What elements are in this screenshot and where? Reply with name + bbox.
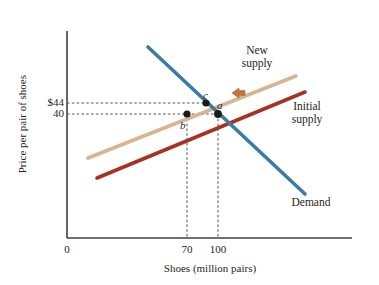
point-c-label: c xyxy=(203,89,208,101)
new-supply-label-line1: New xyxy=(222,44,292,57)
initial-supply-label-line2: supply xyxy=(272,113,342,126)
initial-supply-label: Initial supply xyxy=(272,100,342,126)
y-axis-title: Price per pair of shoes xyxy=(16,44,28,204)
initial-supply-label-line1: Initial xyxy=(272,100,342,113)
new-supply-label-line2: supply xyxy=(222,57,292,70)
x-origin-label: 0 xyxy=(57,243,77,255)
x-tick-label-70: 70 xyxy=(175,243,199,255)
supply-demand-chart: $44 40 0 70 100 Price per pair of shoes … xyxy=(0,0,379,285)
y-tick-label-40: 40 xyxy=(30,107,64,119)
new-supply-label: New supply xyxy=(222,44,292,70)
x-tick-label-100: 100 xyxy=(204,243,232,255)
point-b-marker xyxy=(183,110,190,117)
point-b-label: b xyxy=(180,119,186,131)
point-a-label: a xyxy=(217,99,223,111)
demand-label: Demand xyxy=(278,196,344,209)
x-axis-title: Shoes (million pairs) xyxy=(135,262,285,274)
